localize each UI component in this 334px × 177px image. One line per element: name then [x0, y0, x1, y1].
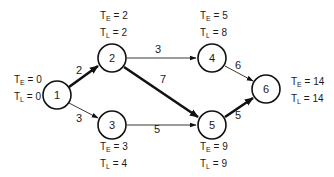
node-3-te: TE = 3 — [100, 141, 128, 153]
node-6-te: TE = 14 — [291, 76, 325, 88]
node-6-tl: TL = 14 — [291, 93, 324, 105]
edge-1-3 — [69, 103, 98, 118]
node-3-label: 3 — [109, 119, 115, 131]
node-6: 6 — [252, 75, 280, 103]
node-5-tl: TL = 9 — [200, 158, 227, 170]
node-1-label: 1 — [54, 89, 60, 101]
node-1: 1 — [43, 81, 71, 109]
node-4: 4 — [198, 44, 226, 72]
node-4-te: TE = 5 — [200, 10, 228, 22]
node-1-tl: TL = 0 — [14, 91, 41, 103]
edge-1-2 — [69, 66, 98, 87]
node-5-te: TE = 9 — [200, 141, 228, 153]
node-3-tl: TL = 4 — [100, 158, 127, 170]
network-diagram: 2 3 3 7 5 6 5 1 — [0, 0, 334, 177]
node-4-tl: TL = 8 — [200, 27, 227, 39]
edge-4-6-weight: 6 — [235, 59, 241, 71]
node-6-label: 6 — [263, 83, 269, 95]
edge-1-2-weight: 2 — [76, 64, 82, 76]
edge-5-6-weight: 5 — [235, 109, 241, 121]
node-5-label: 5 — [209, 119, 215, 131]
edge-1-3-weight: 3 — [76, 112, 82, 124]
node-5: 5 — [198, 111, 226, 139]
node-4-label: 4 — [209, 52, 215, 64]
edge-2-4-weight: 3 — [155, 43, 161, 55]
edge-2-5-weight: 7 — [160, 73, 166, 85]
node-2: 2 — [98, 44, 126, 72]
edge-3-5-weight: 5 — [154, 123, 160, 135]
node-3: 3 — [98, 111, 126, 139]
node-2-label: 2 — [109, 52, 115, 64]
node-1-te: TE = 0 — [14, 74, 42, 86]
node-2-tl: TL = 2 — [100, 27, 127, 39]
node-2-te: TE = 2 — [100, 10, 128, 22]
